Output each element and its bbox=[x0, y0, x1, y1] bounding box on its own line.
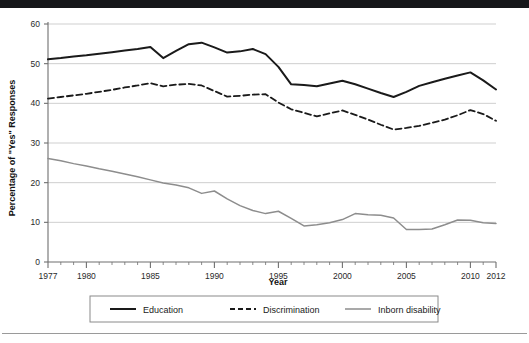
legend-label-inborn-disability: Inborn disability bbox=[378, 305, 441, 315]
y-axis-title: Percentage of "Yes" Responses bbox=[7, 80, 17, 217]
x-axis-title: Year bbox=[268, 277, 288, 287]
series-line-discrimination bbox=[48, 83, 496, 129]
chart-container: 0102030405060 19771980198519901995200020… bbox=[0, 8, 529, 330]
y-axis: 0102030405060 bbox=[31, 19, 48, 267]
x-tick-label: 2005 bbox=[397, 271, 416, 281]
line-chart: 0102030405060 19771980198519901995200020… bbox=[0, 8, 529, 330]
top-black-bar bbox=[0, 0, 529, 8]
y-tick-label: 20 bbox=[31, 178, 41, 188]
y-tick-label: 0 bbox=[35, 257, 40, 267]
data-series-group bbox=[48, 43, 496, 230]
x-tick-label: 1990 bbox=[205, 271, 224, 281]
x-tick-label: 1977 bbox=[39, 271, 58, 281]
legend-label-discrimination: Discrimination bbox=[263, 305, 320, 315]
legend: EducationDiscriminationInborn disability bbox=[90, 296, 441, 322]
x-tick-label: 2012 bbox=[487, 271, 506, 281]
x-tick-label: 2010 bbox=[461, 271, 480, 281]
legend-label-education: Education bbox=[143, 305, 183, 315]
figure-root: 0102030405060 19771980198519901995200020… bbox=[0, 0, 529, 343]
x-tick-label: 1980 bbox=[77, 271, 96, 281]
y-tick-label: 30 bbox=[31, 138, 41, 148]
y-tick-label: 10 bbox=[31, 217, 41, 227]
bottom-divider bbox=[2, 333, 527, 334]
y-tick-label: 40 bbox=[31, 98, 41, 108]
x-tick-label: 2000 bbox=[333, 271, 352, 281]
x-tick-label: 1985 bbox=[141, 271, 160, 281]
y-tick-label: 50 bbox=[31, 59, 41, 69]
y-tick-label: 60 bbox=[31, 19, 41, 29]
series-line-inborn-disability bbox=[48, 158, 496, 229]
